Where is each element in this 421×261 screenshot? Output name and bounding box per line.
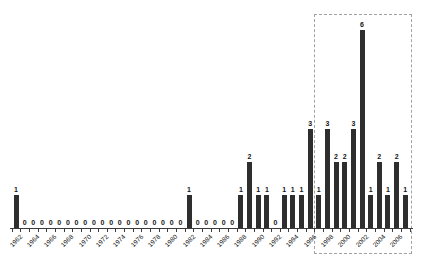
x-axis-tick xyxy=(193,229,194,232)
x-axis-tick xyxy=(159,229,160,232)
bar xyxy=(308,129,313,228)
bar xyxy=(385,195,390,228)
bar xyxy=(342,162,347,228)
bar-value-label: 0 xyxy=(269,219,283,227)
x-axis-tick xyxy=(219,229,220,232)
x-axis-tick xyxy=(12,229,13,232)
bar-value-label: 1 xyxy=(381,186,395,194)
x-axis-tick xyxy=(384,229,385,232)
x-tick-label: 1978 xyxy=(146,233,161,248)
x-axis-tick xyxy=(64,229,65,232)
x-axis-tick xyxy=(366,229,367,232)
x-axis-tick xyxy=(141,229,142,232)
bar xyxy=(377,162,382,228)
bar xyxy=(316,195,321,228)
x-axis-tick xyxy=(228,229,229,232)
x-axis-tick xyxy=(46,229,47,232)
bar-value-label: 1 xyxy=(234,186,248,194)
bar xyxy=(282,195,287,228)
bar xyxy=(247,162,252,228)
bar-value-label: 1 xyxy=(294,186,308,194)
x-axis-tick xyxy=(297,229,298,232)
x-axis-tick xyxy=(38,229,39,232)
x-tick-label: 1982 xyxy=(181,233,196,248)
bar-value-label: 1 xyxy=(312,186,326,194)
x-axis-tick xyxy=(306,229,307,232)
bar-value-label: 1 xyxy=(364,186,378,194)
x-axis-tick xyxy=(72,229,73,232)
x-axis-tick xyxy=(392,229,393,232)
x-axis-tick xyxy=(314,229,315,232)
bar-value-label: 1 xyxy=(9,186,23,194)
bar xyxy=(394,162,399,228)
x-axis-tick xyxy=(323,229,324,232)
x-axis-tick xyxy=(254,229,255,232)
bar xyxy=(238,195,243,228)
bar-value-label: 1 xyxy=(182,186,196,194)
bar-value-label: 3 xyxy=(320,120,334,128)
bar-value-label: 1 xyxy=(260,186,274,194)
x-tick-label: 1992 xyxy=(267,233,282,248)
x-axis-tick xyxy=(176,229,177,232)
x-axis-tick xyxy=(375,229,376,232)
x-axis-tick xyxy=(20,229,21,232)
x-axis-tick xyxy=(133,229,134,232)
x-axis-tick xyxy=(107,229,108,232)
x-axis-tick xyxy=(202,229,203,232)
x-axis-tick xyxy=(280,229,281,232)
x-tick-label: 1970 xyxy=(77,233,92,248)
bar-chart: 1000000000000000000010000012110111313223… xyxy=(0,0,421,261)
bar-value-label: 2 xyxy=(243,153,257,161)
bar xyxy=(299,195,304,228)
x-tick-label: 1986 xyxy=(215,233,230,248)
bar xyxy=(368,195,373,228)
x-axis-tick xyxy=(115,229,116,232)
x-tick-label: 1984 xyxy=(198,233,213,248)
bar-value-label: 0 xyxy=(173,219,187,227)
bar xyxy=(256,195,261,228)
bar-value-label: 2 xyxy=(390,153,404,161)
x-axis-tick xyxy=(81,229,82,232)
bar-value-label: 2 xyxy=(338,153,352,161)
x-axis-tick xyxy=(90,229,91,232)
x-axis-tick xyxy=(98,229,99,232)
x-axis-tick xyxy=(211,229,212,232)
x-axis-tick xyxy=(167,229,168,232)
bar xyxy=(334,162,339,228)
x-axis-tick xyxy=(124,229,125,232)
x-tick-label: 1966 xyxy=(42,233,57,248)
x-tick-label: 1964 xyxy=(25,233,40,248)
x-axis-tick xyxy=(150,229,151,232)
bar xyxy=(351,129,356,228)
x-axis-tick xyxy=(332,229,333,232)
x-axis-tick xyxy=(288,229,289,232)
bar-value-label: 3 xyxy=(303,120,317,128)
x-tick-label: 1976 xyxy=(129,233,144,248)
bar-value-label: 1 xyxy=(398,186,412,194)
x-tick-label: 1974 xyxy=(112,233,127,248)
bar-value-label: 6 xyxy=(355,21,369,29)
x-axis-tick xyxy=(263,229,264,232)
bar xyxy=(403,195,408,228)
bar xyxy=(290,195,295,228)
x-axis-tick xyxy=(358,229,359,232)
x-axis-tick xyxy=(55,229,56,232)
x-tick-label: 1990 xyxy=(250,233,265,248)
x-tick-label: 1972 xyxy=(94,233,109,248)
x-axis-tick xyxy=(349,229,350,232)
x-axis-tick xyxy=(237,229,238,232)
x-axis-tick xyxy=(29,229,30,232)
x-tick-label: 1968 xyxy=(60,233,75,248)
bar-value-label: 2 xyxy=(372,153,386,161)
x-axis-tick xyxy=(245,229,246,232)
bar xyxy=(360,30,365,228)
bar-value-label: 3 xyxy=(346,120,360,128)
x-axis-tick xyxy=(271,229,272,232)
x-axis-tick xyxy=(185,229,186,232)
bar xyxy=(325,129,330,228)
x-axis-tick xyxy=(340,229,341,232)
bar-value-label: 0 xyxy=(225,219,239,227)
x-axis-tick xyxy=(410,229,411,232)
x-tick-label: 1962 xyxy=(8,233,23,248)
x-axis-tick xyxy=(401,229,402,232)
